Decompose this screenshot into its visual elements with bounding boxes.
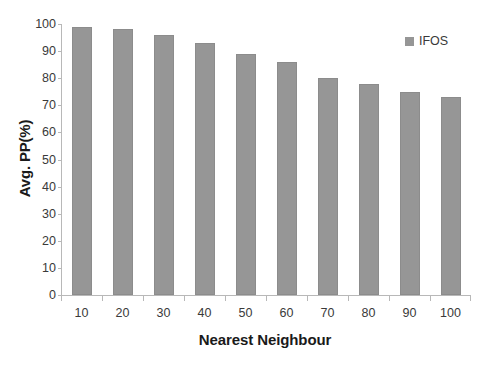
x-axis-title: Nearest Neighbour bbox=[60, 331, 470, 348]
x-tick-mark bbox=[389, 296, 390, 301]
x-tick-mark bbox=[307, 296, 308, 301]
bar-chart: Avg. PP(%) 1009080706050403020100 102030… bbox=[0, 0, 482, 368]
bar-series-ifos bbox=[62, 24, 471, 295]
x-tick-mark bbox=[184, 296, 185, 301]
bar-70 bbox=[318, 78, 338, 295]
x-tick-label: 60 bbox=[266, 306, 307, 320]
x-tick-slot: 40 bbox=[184, 296, 225, 326]
bar-slot bbox=[144, 24, 185, 295]
bar-40 bbox=[195, 43, 215, 295]
x-tick-label: 30 bbox=[143, 306, 184, 320]
y-axis-title: Avg. PP(%) bbox=[16, 94, 33, 224]
x-tick-slot: 10 bbox=[61, 296, 102, 326]
x-tick-label: 10 bbox=[61, 306, 102, 320]
x-tick-label: 80 bbox=[348, 306, 389, 320]
y-tick-label: 40 bbox=[42, 180, 56, 194]
bar-30 bbox=[154, 35, 174, 295]
plot-area: 1009080706050403020100 bbox=[61, 24, 471, 296]
y-tick-label: 0 bbox=[49, 288, 56, 302]
x-tick-label: 90 bbox=[389, 306, 430, 320]
x-tick-label: 70 bbox=[307, 306, 348, 320]
bar-slot bbox=[348, 24, 389, 295]
y-tick-label: 100 bbox=[35, 17, 56, 31]
bar-slot bbox=[307, 24, 348, 295]
bar-slot bbox=[103, 24, 144, 295]
y-tick-label: 50 bbox=[42, 153, 56, 167]
x-tick-mark bbox=[143, 296, 144, 301]
x-axis-ticks: 102030405060708090100 bbox=[61, 296, 471, 326]
x-tick-mark bbox=[430, 296, 431, 301]
x-tick-slot: 20 bbox=[102, 296, 143, 326]
chart-legend: IFOS bbox=[405, 34, 448, 48]
x-tick-label: 50 bbox=[225, 306, 266, 320]
x-tick-mark bbox=[61, 296, 62, 301]
y-tick-label: 80 bbox=[42, 71, 56, 85]
x-tick-slot: 50 bbox=[225, 296, 266, 326]
y-tick-label: 90 bbox=[42, 44, 56, 58]
x-tick-label: 40 bbox=[184, 306, 225, 320]
bar-slot bbox=[62, 24, 103, 295]
x-tick-slot: 90 bbox=[389, 296, 430, 326]
bar-slot bbox=[185, 24, 226, 295]
x-tick-mark bbox=[225, 296, 226, 301]
bar-50 bbox=[236, 54, 256, 295]
y-tick-label: 20 bbox=[42, 234, 56, 248]
bar-slot bbox=[267, 24, 308, 295]
bar-slot bbox=[389, 24, 430, 295]
x-tick-slot: 70 bbox=[307, 296, 348, 326]
y-tick-label: 10 bbox=[42, 261, 56, 275]
bar-80 bbox=[359, 84, 379, 295]
y-tick-label: 60 bbox=[42, 125, 56, 139]
bar-60 bbox=[277, 62, 297, 295]
bar-slot bbox=[226, 24, 267, 295]
x-tick-label: 20 bbox=[102, 306, 143, 320]
legend-label-ifos: IFOS bbox=[419, 34, 448, 48]
x-tick-label: 100 bbox=[430, 306, 471, 320]
x-tick-mark bbox=[266, 296, 267, 301]
y-tick-label: 30 bbox=[42, 207, 56, 221]
x-tick-slot: 100 bbox=[430, 296, 471, 326]
x-tick-mark bbox=[348, 296, 349, 301]
bar-10 bbox=[72, 27, 92, 295]
x-tick-slot: 60 bbox=[266, 296, 307, 326]
bar-100 bbox=[441, 97, 461, 295]
legend-swatch-icon bbox=[405, 37, 414, 46]
bar-20 bbox=[113, 29, 133, 295]
y-tick-label: 70 bbox=[42, 98, 56, 112]
bar-slot bbox=[430, 24, 471, 295]
x-tick-slot: 30 bbox=[143, 296, 184, 326]
x-tick-mark bbox=[102, 296, 103, 301]
x-tick-slot: 80 bbox=[348, 296, 389, 326]
bar-90 bbox=[400, 92, 420, 295]
